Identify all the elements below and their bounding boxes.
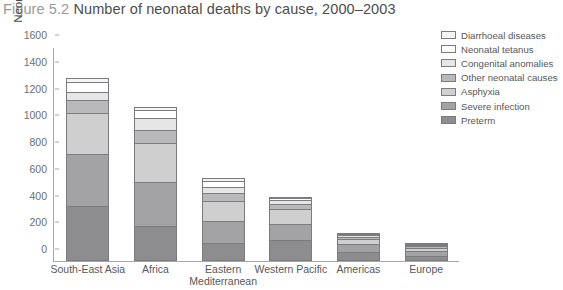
bar-stack[interactable] <box>269 197 312 261</box>
legend-label: Severe infection <box>461 101 530 112</box>
legend-label: Diarrhoeal diseases <box>461 30 546 41</box>
y-axis-tick-mark <box>55 222 59 223</box>
legend-item[interactable]: Severe infection <box>441 99 558 113</box>
legend-swatch-icon <box>441 116 456 124</box>
legend-swatch-icon <box>441 74 456 82</box>
y-axis-tick-mark <box>55 88 59 89</box>
bar-segment[interactable] <box>337 244 380 252</box>
y-axis-tick-mark <box>55 195 59 196</box>
legend-swatch-icon <box>441 102 456 110</box>
legend-item[interactable]: Neonatal tetanus <box>441 42 558 56</box>
bar-stack[interactable] <box>405 243 448 261</box>
legend-label: Congenital anomalies <box>461 58 553 69</box>
x-axis-label: Europe <box>384 264 468 276</box>
bar-segment[interactable] <box>202 201 245 221</box>
y-axis-tick-mark <box>55 142 59 143</box>
bar-segment[interactable] <box>202 221 245 243</box>
bar-segment[interactable] <box>66 82 109 91</box>
bar-segment[interactable] <box>134 226 177 261</box>
y-axis-tick: 1000 <box>24 109 54 121</box>
bar-segment[interactable] <box>202 193 245 200</box>
bar-segment[interactable] <box>134 130 177 143</box>
legend-item[interactable]: Diarrhoeal diseases <box>441 28 558 42</box>
y-axis-tick-mark <box>55 115 59 116</box>
y-axis-tick: 400 <box>29 190 54 202</box>
legend-label: Neonatal tetanus <box>461 44 534 55</box>
bar-segment[interactable] <box>134 143 177 182</box>
y-axis-title: Neonatal deaths (thousands) <box>12 0 26 52</box>
bar-segment[interactable] <box>269 224 312 240</box>
legend-swatch-icon <box>441 88 456 96</box>
y-axis-tick: 1400 <box>24 56 54 68</box>
bar-segment[interactable] <box>134 110 177 118</box>
legend-swatch-icon <box>441 45 456 53</box>
chart-legend: Diarrhoeal diseasesNeonatal tetanusConge… <box>441 28 558 127</box>
bar-stack[interactable] <box>134 107 177 261</box>
y-axis-tick-mark <box>55 249 59 250</box>
y-axis-tick-mark <box>55 61 59 62</box>
y-axis-tick: 1200 <box>24 83 54 95</box>
bar-segment[interactable] <box>269 209 312 224</box>
bar-segment[interactable] <box>337 252 380 261</box>
bar-segment[interactable] <box>66 92 109 100</box>
bar-segment[interactable] <box>202 181 245 188</box>
y-axis-tick: 600 <box>29 163 54 175</box>
legend-label: Other neonatal causes <box>461 72 558 83</box>
legend-item[interactable]: Other neonatal causes <box>441 71 558 85</box>
bar-segment[interactable] <box>66 206 109 261</box>
bar-segment[interactable] <box>134 182 177 225</box>
legend-swatch-icon <box>441 31 456 39</box>
plot-area: 02004006008001000120014001600South-East … <box>53 48 459 262</box>
bar-stack[interactable] <box>202 178 245 261</box>
legend-label: Asphyxia <box>461 86 500 97</box>
bar-stack[interactable] <box>337 233 380 261</box>
bar-segment[interactable] <box>66 154 109 206</box>
y-axis-tick: 200 <box>29 216 54 228</box>
y-axis-tick: 1600 <box>24 29 54 41</box>
legend-item[interactable]: Preterm <box>441 113 558 127</box>
y-axis-tick: 800 <box>29 136 54 148</box>
bar-segment[interactable] <box>66 100 109 113</box>
y-axis-tick: 0 <box>41 243 54 255</box>
legend-item[interactable]: Congenital anomalies <box>441 56 558 70</box>
legend-item[interactable]: Asphyxia <box>441 85 558 99</box>
y-axis-tick-mark <box>55 168 59 169</box>
figure-title: Figure 5.2 Number of neonatal deaths by … <box>3 1 396 17</box>
legend-swatch-icon <box>441 59 456 67</box>
legend-label: Preterm <box>461 115 495 126</box>
figure-title-text: Number of neonatal deaths by cause, 2000… <box>73 1 395 17</box>
bar-segment[interactable] <box>269 240 312 261</box>
bar-segment[interactable] <box>66 113 109 154</box>
bar-segment[interactable] <box>405 256 448 261</box>
bar-segment[interactable] <box>202 243 245 261</box>
bar-stack[interactable] <box>66 78 109 261</box>
bar-segment[interactable] <box>134 118 177 130</box>
figure-container: Figure 5.2 Number of neonatal deaths by … <box>0 0 563 290</box>
y-axis-tick-mark <box>55 35 59 36</box>
